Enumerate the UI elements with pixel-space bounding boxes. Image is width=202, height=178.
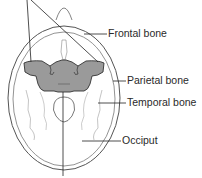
label-occiput: Occiput	[122, 135, 158, 146]
label-parietal-bone: Parietal bone	[127, 75, 189, 86]
label-temporal-bone: Temporal bone	[127, 97, 196, 108]
skull-diagram: Frontal bone Parietal bone Temporal bone…	[0, 0, 202, 178]
label-frontal-bone: Frontal bone	[108, 28, 167, 39]
nasal-outline	[56, 8, 72, 20]
skull-illustration	[0, 0, 202, 178]
